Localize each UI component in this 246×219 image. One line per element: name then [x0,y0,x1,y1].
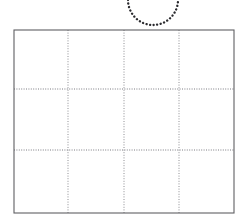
figure-svg [0,0,246,219]
dotted-arc-icon [128,0,178,25]
figure-canvas [0,0,246,219]
vertical-gridlines [68,30,179,213]
